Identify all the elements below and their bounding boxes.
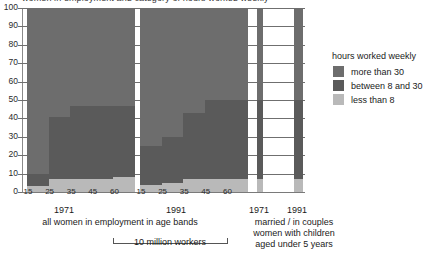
legend-swatch-0 xyxy=(333,66,344,77)
right-section-caption-line2: women with children xyxy=(253,228,335,239)
y-tickmark-90 xyxy=(18,26,22,27)
y-tick-20: 20 xyxy=(0,150,18,159)
segment-between-8-and-30 xyxy=(183,113,205,179)
y-tickmark-40 xyxy=(18,118,22,119)
x-tick-1971-60: 60 xyxy=(102,187,126,196)
right-tick-1971: 1971 xyxy=(249,205,269,215)
segment-more-than-30 xyxy=(205,8,227,100)
x-tick-1991-45: 45 xyxy=(194,187,218,196)
x-tick-1971-25: 25 xyxy=(38,187,62,196)
bar-1991-0 xyxy=(140,8,162,192)
segment-more-than-30 xyxy=(294,8,303,100)
y-tickmark-70 xyxy=(18,63,22,64)
left-section-caption: all women in employment in age bands xyxy=(42,217,198,228)
y-tick-60: 60 xyxy=(0,77,18,86)
y-tick-50: 50 xyxy=(0,95,18,104)
legend-swatch-2 xyxy=(333,94,344,105)
segment-between-8-and-30 xyxy=(257,100,263,179)
segment-more-than-30 xyxy=(183,8,205,113)
bar-1971-1 xyxy=(49,8,71,192)
y-tick-30: 30 xyxy=(0,132,18,141)
legend: hours worked weekly more than 30between … xyxy=(333,51,445,108)
y-tickmark-80 xyxy=(18,45,22,46)
y-tick-70: 70 xyxy=(0,58,18,67)
y-tickmark-10 xyxy=(18,174,22,175)
bar-1971-4 xyxy=(113,8,135,192)
segment-between-8-and-30 xyxy=(113,106,135,178)
segment-more-than-30 xyxy=(162,8,184,137)
group-label-1991: 1991 xyxy=(166,205,186,215)
segment-between-8-and-30 xyxy=(92,106,114,180)
y-tick-40: 40 xyxy=(0,113,18,122)
segment-between-8-and-30 xyxy=(294,100,303,179)
plot-area xyxy=(22,8,305,192)
legend-items: more than 30between 8 and 30less than 8 xyxy=(333,66,445,105)
segment-more-than-30 xyxy=(257,8,263,100)
segment-between-8-and-30 xyxy=(226,100,248,179)
x-tick-1971-15: 15 xyxy=(16,187,40,196)
segment-more-than-30 xyxy=(113,8,135,106)
bar-1971-0 xyxy=(27,8,49,192)
bar-1991-1 xyxy=(162,8,184,192)
y-tickmark-60 xyxy=(18,82,22,83)
legend-title: hours worked weekly xyxy=(332,51,445,61)
y-tick-90: 90 xyxy=(0,21,18,30)
segment-more-than-30 xyxy=(226,8,248,100)
legend-item-0[interactable]: more than 30 xyxy=(333,66,445,77)
legend-label-1: between 8 and 30 xyxy=(351,81,423,91)
x-tick-1971-45: 45 xyxy=(81,187,105,196)
segment-between-8-and-30 xyxy=(70,106,92,180)
y-tick-80: 80 xyxy=(0,40,18,49)
legend-swatch-1 xyxy=(333,80,344,91)
segment-less-than-8 xyxy=(257,179,263,192)
y-tickmark-20 xyxy=(18,155,22,156)
bar-children-1991 xyxy=(294,8,303,192)
segment-between-8-and-30 xyxy=(140,146,162,185)
y-tickmark-100 xyxy=(18,8,22,9)
bar-1991-3 xyxy=(205,8,227,192)
bar-1991-4 xyxy=(226,8,248,192)
segment-more-than-30 xyxy=(27,8,49,174)
segment-more-than-30 xyxy=(70,8,92,106)
y-tickmark-50 xyxy=(18,100,22,101)
bar-1991-2 xyxy=(183,8,205,192)
segment-more-than-30 xyxy=(49,8,71,117)
workers-bracket-label: 10 million workers xyxy=(134,237,206,247)
chart-container: women in employment and category of hour… xyxy=(0,0,446,257)
bar-1971-2 xyxy=(70,8,92,192)
legend-item-1[interactable]: between 8 and 30 xyxy=(333,80,445,91)
y-tick-100: 100 xyxy=(0,3,18,12)
chart-title: women in employment and category of hour… xyxy=(22,0,269,3)
x-tick-1991-25: 25 xyxy=(151,187,175,196)
y-tickmark-30 xyxy=(18,137,22,138)
x-tick-1991-60: 60 xyxy=(215,187,239,196)
x-tick-1971-35: 35 xyxy=(59,187,83,196)
segment-between-8-and-30 xyxy=(162,137,184,183)
segment-between-8-and-30 xyxy=(27,174,49,187)
legend-label-0: more than 30 xyxy=(351,67,404,77)
bar-children-1971 xyxy=(257,8,263,192)
group-label-1971: 1971 xyxy=(54,205,74,215)
segment-more-than-30 xyxy=(92,8,114,106)
segment-between-8-and-30 xyxy=(205,100,227,179)
segment-less-than-8 xyxy=(294,179,303,192)
segment-more-than-30 xyxy=(140,8,162,146)
right-tick-1991: 1991 xyxy=(287,205,307,215)
x-tick-1991-15: 15 xyxy=(129,187,153,196)
right-section-caption-line1: married / in couples xyxy=(255,217,334,228)
segment-between-8-and-30 xyxy=(49,117,71,180)
x-tick-1991-35: 35 xyxy=(172,187,196,196)
right-section-caption-line3: aged under 5 years xyxy=(255,239,333,250)
y-tick-10: 10 xyxy=(0,169,18,178)
legend-item-2[interactable]: less than 8 xyxy=(333,94,445,105)
legend-label-2: less than 8 xyxy=(351,95,395,105)
bar-1971-3 xyxy=(92,8,114,192)
